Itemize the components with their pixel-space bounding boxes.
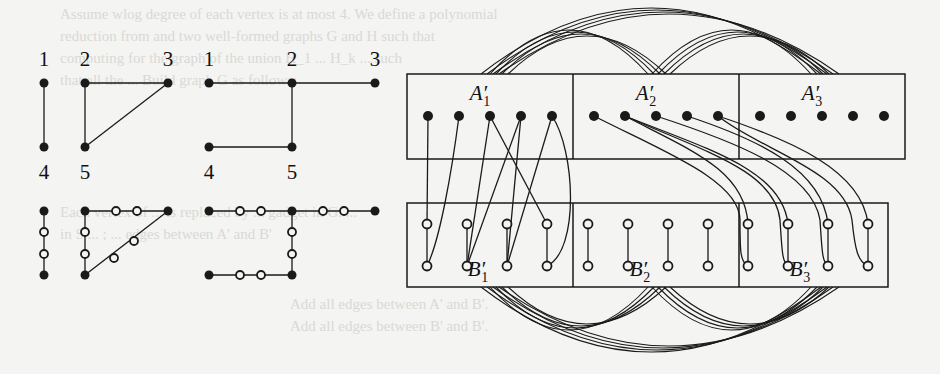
b-vertex-bottom	[824, 262, 833, 271]
a-vertex-dot	[651, 111, 661, 121]
label-subscript: 1	[481, 270, 488, 285]
connecting-arc	[490, 287, 648, 330]
vertex-dot	[205, 79, 214, 88]
vertex-dot	[205, 207, 214, 216]
subdivision-vertex	[288, 250, 296, 258]
label-subscript: 2	[643, 270, 650, 285]
a-vertex-dot	[713, 111, 723, 121]
subdivision-vertex	[288, 228, 296, 236]
label-subscript: 3	[815, 94, 822, 109]
vertex-label: 3	[163, 47, 174, 71]
b-vertex-bottom	[543, 262, 552, 271]
a-vertex-dot	[755, 111, 765, 121]
b-vertex-bottom	[744, 262, 753, 271]
label-subscript: 3	[803, 270, 810, 285]
block-label-a: A′3	[800, 81, 822, 109]
vertex-label: 4	[39, 160, 50, 184]
connecting-arc	[658, 32, 817, 74]
block-label-a: A′2	[634, 81, 656, 109]
vertex-label: 2	[287, 47, 298, 71]
vertex-dot	[40, 79, 49, 88]
connecting-arc	[499, 287, 839, 346]
b-vertex-top	[503, 220, 512, 229]
a-vertex-dot	[516, 111, 526, 121]
subdivision-vertex	[110, 254, 118, 262]
connecting-arc	[496, 32, 654, 74]
vertex-dot	[205, 271, 214, 280]
connecting-arc	[652, 30, 811, 74]
a-vertex-dot	[786, 111, 796, 121]
vertex-dot	[40, 207, 49, 216]
connecting-arc	[658, 287, 817, 328]
a-vertex-dot	[547, 111, 557, 121]
connecting-arc	[652, 287, 811, 330]
b-vertex-top	[704, 220, 713, 229]
b-vertex-top	[584, 220, 593, 229]
b-vertex-bottom	[584, 262, 593, 271]
vertex-dot	[81, 271, 90, 280]
connecting-arc	[664, 34, 823, 74]
block-label-b: B′2	[630, 257, 650, 285]
vertex-label: 4	[204, 160, 215, 184]
b-vertex-top	[463, 220, 472, 229]
connecting-arc	[490, 30, 648, 74]
block-label-a: A′1	[468, 81, 490, 109]
vertex-dot	[371, 207, 380, 216]
subdivided-graphs	[40, 207, 380, 280]
vertex-label: 5	[80, 160, 91, 184]
b-vertex-top	[543, 220, 552, 229]
subdivision-vertex	[319, 207, 327, 215]
b-vertex-bottom	[664, 262, 673, 271]
a-vertex-dot	[589, 111, 599, 121]
subdivision-vertex	[133, 207, 141, 215]
vertex-dot	[288, 79, 297, 88]
subdivision-vertex	[257, 271, 265, 279]
vertex-dot	[81, 207, 90, 216]
a-vertex-dot	[423, 111, 433, 121]
b-vertex-top	[664, 220, 673, 229]
vertex-label: 1	[204, 47, 215, 71]
vertex-dot	[288, 207, 297, 216]
subdivision-vertex	[236, 271, 244, 279]
a-vertex-dot	[848, 111, 858, 121]
b-vertex-top	[824, 220, 833, 229]
b-vertex-bottom	[704, 262, 713, 271]
connecting-arc	[664, 287, 823, 326]
vertex-dot	[40, 143, 49, 152]
b-vertex-bottom	[423, 262, 432, 271]
vertex-dot	[205, 143, 214, 152]
subdivision-vertex	[81, 250, 89, 258]
block-arcs	[481, 8, 839, 352]
vertex-dot	[164, 79, 173, 88]
a-vertex-dot	[682, 111, 692, 121]
subdivision-vertex	[257, 207, 265, 215]
graph-edge	[85, 83, 168, 147]
vertex-dot	[81, 79, 90, 88]
subdivision-vertex	[340, 207, 348, 215]
graph-edge	[85, 211, 168, 275]
b-vertex-top	[423, 220, 432, 229]
b-vertex-top	[864, 220, 873, 229]
vertex-dot	[288, 271, 297, 280]
a-vertex-dot	[454, 111, 464, 121]
b-vertex-bottom	[864, 262, 873, 271]
vertex-dot	[164, 207, 173, 216]
connecting-arc	[502, 287, 660, 326]
b-vertex-top	[784, 220, 793, 229]
label-subscript: 2	[649, 94, 656, 109]
vertex-label: 2	[80, 47, 91, 71]
a-vertex-dot	[485, 111, 495, 121]
example-graphs: 1234512345	[39, 47, 381, 184]
vertex-label: 1	[39, 47, 50, 71]
a-vertex-dot	[817, 111, 827, 121]
vertex-label: 5	[287, 160, 298, 184]
b-vertex-top	[624, 220, 633, 229]
label-subscript: 1	[483, 94, 490, 109]
connecting-arc	[502, 34, 660, 74]
vertex-dot	[371, 79, 380, 88]
subdivision-vertex	[112, 207, 120, 215]
connecting-arc	[481, 8, 821, 74]
a-vertex-dot	[620, 111, 630, 121]
subdivision-vertex	[236, 207, 244, 215]
subdivision-vertex	[81, 228, 89, 236]
